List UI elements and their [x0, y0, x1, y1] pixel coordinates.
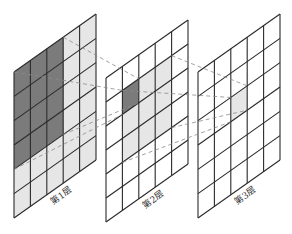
layer-3: [198, 14, 280, 218]
layer-2: [106, 20, 188, 222]
receptive-field-diagram: 第1层 第2层 第3层: [0, 0, 292, 234]
layers-group: [14, 14, 280, 222]
layer-1: [14, 14, 96, 218]
